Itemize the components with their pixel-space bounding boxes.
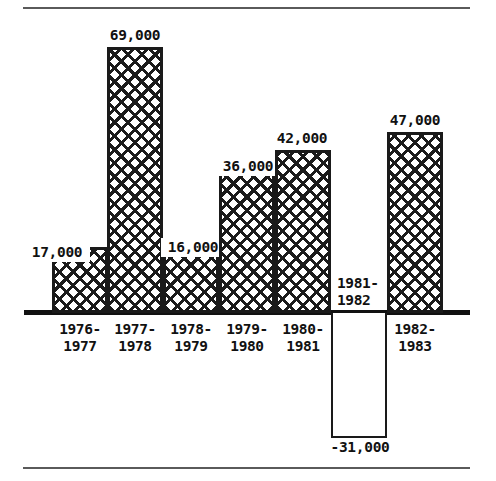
bar-5[interactable] <box>331 313 387 438</box>
bar-4[interactable] <box>275 150 331 313</box>
bar-chart-plot: 17,0001976- 197769,0001977- 197816,00019… <box>0 0 496 481</box>
bar-value-label-2: 16,000 <box>161 238 225 257</box>
category-label-3: 1979- 1980 <box>216 321 278 355</box>
chart-page: 17,0001976- 197769,0001977- 197816,00019… <box>0 0 496 481</box>
category-label-0: 1976- 1977 <box>49 321 111 355</box>
bar-2[interactable] <box>163 251 219 313</box>
bar-value-label-6: 47,000 <box>384 113 446 128</box>
bar-6[interactable] <box>387 132 443 313</box>
category-label-4: 1980- 1981 <box>272 321 334 355</box>
category-label-6: 1982- 1983 <box>384 321 446 355</box>
category-label-1: 1977- 1978 <box>104 321 166 355</box>
bar-1[interactable] <box>107 47 163 313</box>
category-label-2: 1978- 1979 <box>160 321 222 355</box>
bar-value-label-3: 36,000 <box>215 157 281 176</box>
bar-value-label-1: 69,000 <box>104 28 166 43</box>
bar-value-label-0: 17,000 <box>24 243 90 262</box>
bar-3[interactable] <box>219 173 275 313</box>
bar-value-label-4: 42,000 <box>271 131 333 146</box>
bar-value-label-5: -31,000 <box>327 440 393 455</box>
